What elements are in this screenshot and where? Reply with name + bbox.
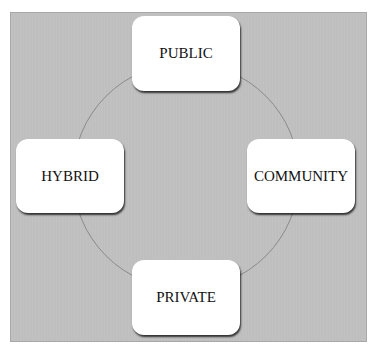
- node-hybrid: HYBRID: [16, 139, 124, 213]
- node-community-label: COMMUNITY: [254, 168, 348, 185]
- node-private-label: PRIVATE: [156, 289, 216, 306]
- node-public: PUBLIC: [132, 16, 240, 91]
- node-hybrid-label: HYBRID: [41, 168, 99, 185]
- node-private: PRIVATE: [132, 260, 240, 335]
- node-community: COMMUNITY: [247, 139, 355, 213]
- node-public-label: PUBLIC: [159, 45, 212, 62]
